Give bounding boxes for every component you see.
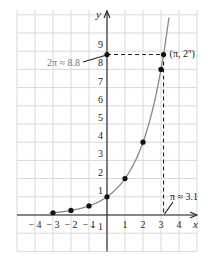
y-tick-label: 4 [98,130,103,141]
dashed-guides [107,54,164,215]
y-tick-label: 7 [98,76,103,87]
annotations: (π, 2π) 2π ≈ 8.8 π ≈ 3.1 [47,47,198,214]
tick-labels: − 4− 3− 2− 11234− 1123456789 [28,39,181,232]
data-point [161,52,166,57]
arrow-pi [165,202,173,214]
axes [17,11,197,251]
exponential-curve [49,17,169,213]
label-2pi-value: 2π ≈ 8.8 [47,57,80,68]
y-tick-label: − 1 [90,221,103,232]
x-tick-label: − 2 [64,219,77,230]
x-tick-label: − 3 [46,219,59,230]
x-tick-label: − 4 [28,219,41,230]
data-point [140,140,145,145]
x-tick-label: 2 [141,219,146,230]
label-pi-value: π ≈ 3.1 [170,191,198,202]
data-point [104,194,109,199]
data-point [122,176,127,181]
y-tick-label: 8 [98,57,103,68]
x-tick-label: 4 [177,219,182,230]
x-tick-label: 1 [123,219,128,230]
y-tick-label: 5 [98,112,103,123]
data-point [68,208,73,213]
x-axis-label: x [192,218,198,230]
data-points [50,52,166,215]
y-tick-label: 2 [98,167,103,178]
exponential-chart: − 4− 3− 2− 11234− 1123456789 (π, 2π) 2π … [0,0,208,261]
y-tick-label: 9 [98,39,103,50]
data-point [50,210,55,215]
x-tick-label: 3 [159,219,164,230]
y-tick-label: 6 [98,94,103,105]
data-point [158,67,163,72]
data-point-y-intercept-2pi [104,52,109,57]
point-label-pi: (π, 2π) [170,47,195,60]
y-axis-label: y [95,8,101,20]
data-point [86,203,91,208]
y-tick-label: 3 [98,148,103,159]
y-tick-label: 1 [98,185,103,196]
